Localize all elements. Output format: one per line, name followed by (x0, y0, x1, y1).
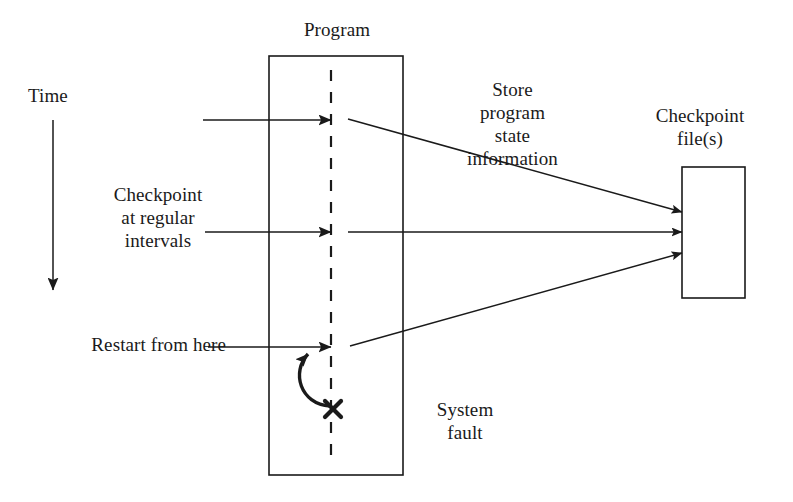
restart-label: Restart from here (30, 333, 226, 356)
diagram-canvas: Time Program Checkpoint at regular inter… (0, 0, 793, 502)
checkpoint-interval-label: Checkpoint at regular intervals (78, 183, 238, 252)
system-fault-label: System fault (410, 398, 520, 444)
time-label: Time (28, 84, 68, 107)
rollback-curved-arrow (299, 354, 330, 406)
checkpoint-file-box (682, 167, 745, 298)
store-state-label: Store program state information (435, 78, 590, 170)
store-state-arrow-3 (350, 253, 682, 346)
system-fault-x-icon (325, 401, 341, 417)
checkpoint-file-label: Checkpoint file(s) (620, 104, 780, 150)
program-label: Program (272, 18, 402, 41)
